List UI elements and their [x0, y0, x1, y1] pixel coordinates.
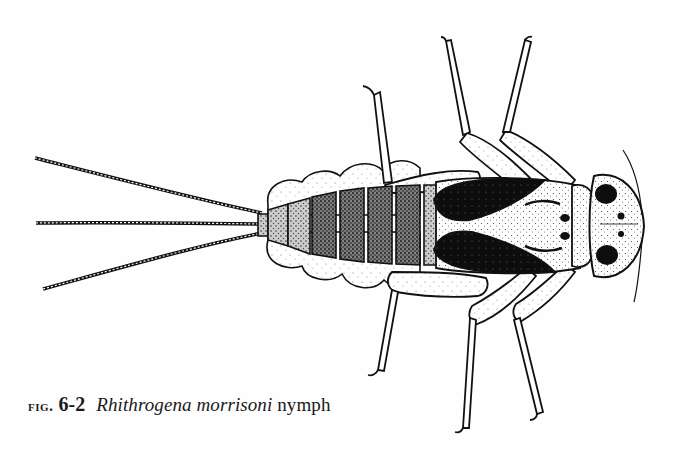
- thorax: [434, 178, 594, 273]
- life-stage: nymph: [277, 394, 330, 415]
- compound-eye-upper: [595, 184, 617, 204]
- compound-eye-lower: [596, 245, 618, 265]
- figure-caption: fig. 6-2 Rhithrogena morrisoni nymph: [28, 393, 331, 416]
- figure-number: 6-2: [58, 393, 85, 415]
- book-page: fig. 6-2 Rhithrogena morrisoni nymph: [0, 0, 678, 457]
- head: [590, 150, 645, 302]
- cerci: [35, 158, 262, 289]
- nymph-illustration: [0, 0, 678, 457]
- figure-label: fig.: [28, 397, 54, 414]
- legs-lower: [368, 264, 575, 432]
- species-name: Rhithrogena morrisoni: [96, 394, 272, 415]
